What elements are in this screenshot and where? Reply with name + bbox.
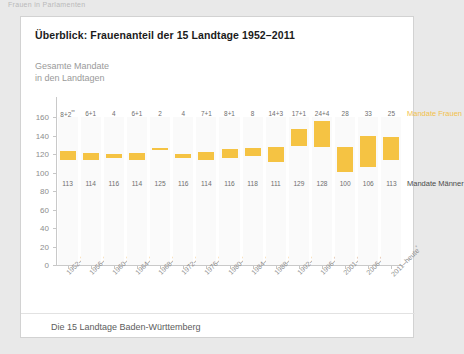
running-header: Frauen in Parlamenten (8, 1, 86, 8)
women-mandates-label: 8+1 (224, 110, 235, 117)
women-mandates-label: 8 (251, 110, 255, 117)
category-band (104, 117, 124, 265)
category-band (335, 117, 355, 265)
legend-men: Mandate Männer (407, 179, 464, 188)
women-mandates-label: 14+3 (269, 110, 283, 117)
bar-segment-women[interactable] (337, 147, 353, 173)
women-mandates-label: 8+2** (60, 110, 74, 118)
bar-segment-women[interactable] (314, 121, 330, 147)
category-band (173, 117, 193, 265)
men-mandates-label: 116 (109, 180, 120, 187)
men-mandates-label: 118 (247, 180, 258, 187)
bar-segment-women[interactable] (60, 151, 76, 160)
y-axis-tick (53, 154, 56, 155)
y-axis-tick (53, 117, 56, 118)
bar-segment-women[interactable] (383, 137, 399, 160)
men-mandates-label: 129 (293, 180, 304, 187)
men-mandates-label: 114 (201, 180, 212, 187)
bar-segment-women[interactable] (198, 152, 214, 159)
women-mandates-label: 6+1 (132, 110, 143, 117)
category-band (127, 117, 147, 265)
women-mandates-label: 6+1 (85, 110, 96, 117)
category-band (196, 117, 216, 265)
y-axis-tick (53, 173, 56, 174)
bar-segment-women[interactable] (268, 147, 284, 163)
legend-women: Mandate Frauen (407, 109, 462, 118)
women-mandates-label: 17+1 (292, 110, 306, 117)
men-mandates-label: 111 (271, 180, 281, 187)
men-mandates-label: 114 (132, 180, 143, 187)
y-axis-label: 100 (29, 168, 49, 177)
y-axis-tick (53, 228, 56, 229)
women-mandates-label: 25 (388, 110, 395, 117)
y-axis-tick (53, 191, 56, 192)
y-axis-label: 20 (29, 242, 49, 251)
women-mandates-label: 33 (365, 110, 372, 117)
y-axis-tick (53, 247, 56, 248)
men-mandates-label: 114 (85, 180, 96, 187)
bar-segment-women[interactable] (360, 136, 376, 167)
bar-segment-women[interactable] (291, 129, 307, 146)
bar-segment-women[interactable] (106, 154, 122, 158)
chart-card: Überblick: Frauenanteil der 15 Landtage … (20, 16, 414, 338)
men-mandates-label: 113 (386, 180, 397, 187)
category-band (81, 117, 101, 265)
women-mandates-label: 7+1 (201, 110, 212, 117)
bar-segment-women[interactable] (129, 153, 145, 159)
women-mandates-label: 4 (112, 110, 116, 117)
men-mandates-label: 116 (178, 180, 189, 187)
y-axis-label: 0 (29, 261, 49, 270)
y-axis-label: 60 (29, 205, 49, 214)
category-band (58, 117, 78, 265)
men-mandates-label: 113 (62, 180, 73, 187)
bar-segment-women[interactable] (83, 153, 99, 159)
men-mandates-label: 125 (155, 180, 166, 187)
y-axis-label: 160 (29, 113, 49, 122)
bar-segment-women[interactable] (245, 148, 261, 155)
bar-segment-women[interactable] (152, 148, 168, 150)
footer-divider (21, 313, 415, 314)
category-band (150, 117, 170, 265)
category-band (266, 117, 286, 265)
men-mandates-label: 100 (340, 180, 351, 187)
plot-area: 0204060801001201401608+2**1131952–19566+… (21, 17, 415, 339)
men-mandates-label: 116 (224, 180, 235, 187)
y-axis-tick (53, 265, 56, 266)
category-band (243, 117, 263, 265)
bar-segment-women[interactable] (175, 154, 191, 158)
category-band (219, 117, 239, 265)
y-axis-label: 120 (29, 150, 49, 159)
men-mandates-label: 128 (317, 180, 328, 187)
women-mandates-label: 24+4 (315, 110, 329, 117)
men-mandates-label: 106 (363, 180, 374, 187)
y-axis-label: 40 (29, 224, 49, 233)
bar-segment-women[interactable] (222, 149, 238, 157)
y-axis-tick (53, 136, 56, 137)
y-axis-label: 140 (29, 131, 49, 140)
y-axis-label: 80 (29, 187, 49, 196)
women-mandates-label: 4 (181, 110, 185, 117)
chart-footer: Die 15 Landtage Baden-Württemberg (51, 322, 201, 332)
women-mandates-label: 28 (342, 110, 349, 117)
women-mandates-label: 2 (158, 110, 162, 117)
y-axis-tick (53, 210, 56, 211)
